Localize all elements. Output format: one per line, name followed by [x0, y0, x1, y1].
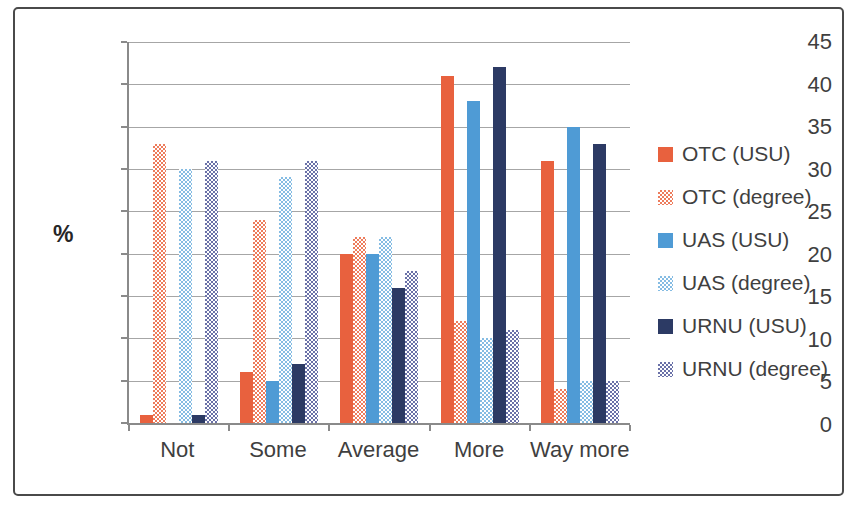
bar-group-average: [329, 42, 429, 423]
legend-label: OTC (degree): [682, 185, 812, 209]
bar-otc-degree-not: [153, 144, 166, 423]
legend-label: URNU (USU): [682, 314, 807, 338]
bar-otc-degree-way-more: [554, 389, 567, 423]
bar-uas-degree-some: [279, 177, 292, 423]
legend-item-uas-usu: UAS (USU): [658, 228, 828, 252]
y-tick-label-45: 45: [808, 31, 832, 53]
bar-urnu-degree-way-more: [606, 381, 619, 423]
x-axis-tick-mark: [529, 425, 531, 431]
bar-group-not: [129, 42, 229, 423]
bar-otc-degree-average: [353, 237, 366, 423]
bar-otc-usu-not: [140, 415, 153, 423]
bar-urnu-usu-more: [493, 67, 506, 423]
bar-urnu-degree-more: [506, 330, 519, 423]
legend-swatch-icon: [658, 190, 673, 205]
y-axis-tick-mark: [121, 380, 127, 382]
legend-label: OTC (USU): [682, 142, 791, 166]
y-axis-tick-mark: [121, 422, 127, 424]
bar-urnu-usu-not: [192, 415, 205, 423]
x-axis-tick-mark: [429, 425, 431, 431]
bar-otc-usu-some: [240, 372, 253, 423]
x-axis-tick-mark: [128, 425, 130, 431]
legend-label: UAS (USU): [682, 228, 789, 252]
y-axis-tick-mark: [121, 126, 127, 128]
bar-urnu-usu-average: [392, 288, 405, 423]
y-axis-tick-mark: [121, 210, 127, 212]
x-axis-tick-mark: [629, 425, 631, 431]
legend-swatch-icon: [658, 362, 673, 377]
legend-item-uas-degree: UAS (degree): [658, 271, 828, 295]
bar-uas-degree-not: [179, 169, 192, 423]
screenshot-root: % 051015202530354045 NotSomeAverageMoreW…: [0, 0, 856, 519]
x-axis-tick-mark: [328, 425, 330, 431]
bar-group-more: [430, 42, 530, 423]
x-label-way-more: Way more: [529, 437, 630, 463]
bar-otc-usu-average: [340, 254, 353, 423]
bar-uas-usu-some: [266, 381, 279, 423]
bar-uas-degree-more: [480, 338, 493, 423]
bar-urnu-degree-average: [405, 271, 418, 423]
bar-uas-usu-more: [467, 101, 480, 423]
legend-item-urnu-usu: URNU (USU): [658, 314, 828, 338]
legend: OTC (USU)OTC (degree)UAS (USU)UAS (degre…: [658, 142, 828, 381]
y-axis-tick-mark: [121, 83, 127, 85]
bar-uas-usu-average: [366, 254, 379, 423]
bar-otc-degree-some: [253, 220, 266, 423]
bar-uas-degree-average: [379, 237, 392, 423]
y-axis-tick-mark: [121, 253, 127, 255]
y-axis-title: %: [53, 221, 73, 248]
legend-swatch-icon: [658, 233, 673, 248]
bar-uas-degree-way-more: [580, 381, 593, 423]
bar-uas-usu-way-more: [567, 127, 580, 423]
legend-label: UAS (degree): [682, 271, 810, 295]
bar-urnu-usu-some: [292, 364, 305, 423]
x-axis-tick-mark: [228, 425, 230, 431]
y-axis-tick-mark: [121, 41, 127, 43]
legend-item-otc-usu: OTC (USU): [658, 142, 828, 166]
x-label-not: Not: [127, 437, 228, 463]
bar-urnu-usu-way-more: [593, 144, 606, 423]
bar-otc-usu-more: [441, 76, 454, 423]
bar-urnu-degree-not: [205, 161, 218, 423]
legend-item-urnu-degree: URNU (degree): [658, 357, 828, 381]
bar-urnu-degree-some: [305, 161, 318, 423]
y-tick-label-40: 40: [808, 74, 832, 96]
legend-swatch-icon: [658, 276, 673, 291]
legend-swatch-icon: [658, 147, 673, 162]
bar-group-way-more: [530, 42, 630, 423]
y-axis-tick-mark: [121, 295, 127, 297]
x-label-average: Average: [328, 437, 429, 463]
bar-otc-usu-way-more: [541, 161, 554, 423]
x-label-some: Some: [228, 437, 329, 463]
legend-label: URNU (degree): [682, 357, 828, 381]
bar-group-some: [229, 42, 329, 423]
plot-area: [127, 42, 630, 425]
legend-item-otc-degree: OTC (degree): [658, 185, 828, 209]
chart-frame: % 051015202530354045 NotSomeAverageMoreW…: [13, 7, 844, 496]
y-axis-tick-mark: [121, 168, 127, 170]
x-label-more: More: [429, 437, 530, 463]
bar-otc-degree-more: [454, 321, 467, 423]
y-axis-tick-mark: [121, 337, 127, 339]
y-tick-label-35: 35: [808, 116, 832, 138]
legend-swatch-icon: [658, 319, 673, 334]
x-axis-labels: NotSomeAverageMoreWay more: [127, 437, 630, 463]
y-tick-label-0: 0: [820, 414, 832, 436]
